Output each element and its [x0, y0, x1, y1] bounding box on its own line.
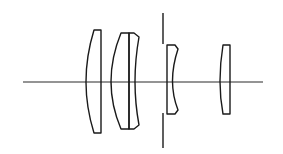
lens-2-rear-element — [129, 33, 139, 129]
lens-4 — [220, 45, 230, 114]
lens-diagram — [0, 0, 283, 154]
lens-3 — [167, 45, 178, 114]
lens-2-front-element — [111, 33, 129, 129]
lens-2-doublet — [111, 33, 139, 129]
